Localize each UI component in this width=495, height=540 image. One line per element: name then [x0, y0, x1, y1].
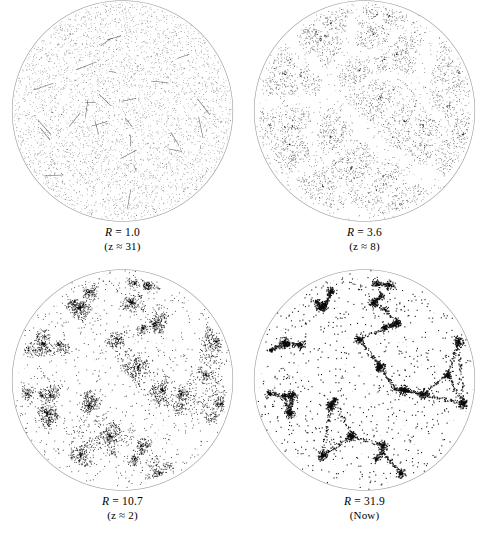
caption-secondary: (Now)	[248, 509, 481, 522]
plot-area	[248, 0, 481, 222]
caption-primary: R = 31.9	[248, 495, 481, 509]
caption-secondary: (z ≈ 31)	[6, 240, 239, 253]
caption-equals: =	[115, 226, 122, 238]
expansion-symbol: R	[102, 495, 109, 507]
scatter-plot-canvas	[248, 269, 481, 491]
scatter-plot-canvas	[248, 0, 481, 222]
expansion-symbol: R	[105, 226, 112, 238]
plot-area	[248, 269, 481, 491]
expansion-value: 31.9	[364, 495, 385, 507]
panel-caption: R = 1.0 (z ≈ 31)	[6, 226, 239, 253]
expansion-value: 3.6	[367, 226, 382, 238]
simulation-panel: R = 1.0 (z ≈ 31)	[6, 0, 239, 270]
expansion-symbol: R	[347, 226, 354, 238]
plot-area	[6, 0, 239, 222]
plot-area	[6, 269, 239, 491]
caption-equals: =	[112, 495, 119, 507]
caption-equals: =	[357, 226, 364, 238]
expansion-value: 1.0	[125, 226, 140, 238]
expansion-symbol: R	[344, 495, 351, 507]
scatter-plot-canvas	[6, 0, 239, 222]
caption-secondary: (z ≈ 2)	[6, 509, 239, 522]
caption-secondary: (z ≈ 8)	[248, 240, 481, 253]
panel-caption: R = 3.6 (z ≈ 8)	[248, 226, 481, 253]
caption-primary: R = 3.6	[248, 226, 481, 240]
panel-caption: R = 10.7 (z ≈ 2)	[6, 495, 239, 522]
simulation-panel: R = 31.9 (Now)	[248, 269, 481, 539]
panel-caption: R = 31.9 (Now)	[248, 495, 481, 522]
cosmic-structure-formation-figure: R = 1.0 (z ≈ 31) R = 3.6 (z ≈ 8) R = 10.…	[0, 0, 495, 540]
simulation-panel: R = 10.7 (z ≈ 2)	[6, 269, 239, 539]
caption-primary: R = 10.7	[6, 495, 239, 509]
caption-primary: R = 1.0	[6, 226, 239, 240]
caption-equals: =	[354, 495, 361, 507]
expansion-value: 10.7	[122, 495, 143, 507]
scatter-plot-canvas	[6, 269, 239, 491]
simulation-panel: R = 3.6 (z ≈ 8)	[248, 0, 481, 270]
